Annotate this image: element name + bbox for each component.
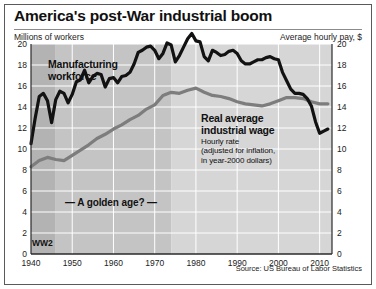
- annotation-real-wage: Real average industrial wage: [201, 113, 274, 136]
- source-note: Source: US Bureau of Labor Statistics: [236, 264, 362, 273]
- y-axis-tick-right: 4: [337, 207, 342, 217]
- annotation-wage-line1: Real average: [201, 113, 274, 125]
- y-axis-tick-left: 6: [22, 186, 27, 196]
- x-axis-tick: 1970: [145, 258, 164, 268]
- y-axis-tick-right: 14: [337, 102, 347, 112]
- y-axis-tick-left: 2: [22, 228, 27, 238]
- y-axis-tick-left: 4: [22, 207, 27, 217]
- annotation-wage-sub2: (adjusted for inflation,: [201, 146, 275, 155]
- annotation-manufacturing-workforce: Manufacturing workforce: [48, 59, 118, 82]
- chart-screenshot: America's post-War industrial boom Milli…: [0, 0, 376, 289]
- chart-canvas: 0246810121416182002468101214161820194019…: [5, 5, 373, 286]
- x-axis-tick: 1950: [63, 258, 82, 268]
- y-axis-tick-left: 14: [18, 102, 28, 112]
- y-axis-tick-right: 16: [337, 81, 347, 91]
- y-axis-tick-right: 18: [337, 60, 347, 70]
- y-axis-tick-left: 10: [18, 144, 28, 154]
- annotation-ww2: WW2: [32, 238, 53, 248]
- y-axis-tick-right: 2: [337, 228, 342, 238]
- y-axis-tick-left: 8: [22, 165, 27, 175]
- y-axis-tick-left: 16: [18, 81, 28, 91]
- x-axis-tick: 1960: [104, 258, 123, 268]
- annotation-wage-sub3: in year-2000 dollars): [201, 156, 275, 165]
- annotation-mfg-line2: workforce: [48, 71, 118, 83]
- chart-card: America's post-War industrial boom Milli…: [4, 4, 372, 285]
- y-axis-tick-left: 20: [18, 39, 28, 49]
- annotation-real-wage-sub: Hourly rate (adjusted for inflation, in …: [201, 137, 275, 165]
- y-axis-tick-right: 20: [337, 39, 347, 49]
- annotation-golden-age: — A golden age? —: [65, 197, 157, 208]
- annotation-wage-sub1: Hourly rate: [201, 137, 275, 146]
- annotation-mfg-line1: Manufacturing: [48, 59, 118, 71]
- y-axis-tick-right: 10: [337, 144, 347, 154]
- plot-area: 0246810121416182002468101214161820194019…: [5, 5, 373, 286]
- y-axis-tick-left: 12: [18, 123, 28, 133]
- y-axis-tick-right: 8: [337, 165, 342, 175]
- x-axis-tick: 1980: [186, 258, 205, 268]
- y-axis-tick-left: 18: [18, 60, 28, 70]
- y-axis-tick-right: 0: [337, 249, 342, 259]
- annotation-wage-line2: industrial wage: [201, 125, 274, 137]
- x-axis-tick: 1940: [22, 258, 41, 268]
- y-axis-tick-right: 6: [337, 186, 342, 196]
- y-axis-tick-right: 12: [337, 123, 347, 133]
